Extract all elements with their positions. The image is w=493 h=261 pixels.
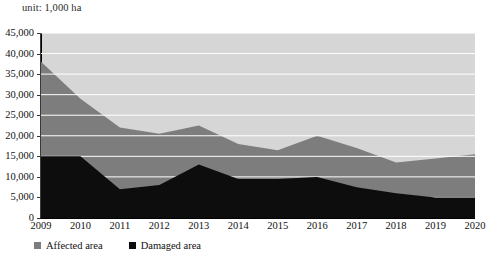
y-tick-label: 40,000	[5, 49, 34, 59]
y-tick-label: 45,000	[5, 28, 34, 38]
chart-legend: Affected areaDamaged area	[34, 240, 201, 251]
legend-item-damaged-area[interactable]: Damaged area	[129, 240, 201, 251]
x-tick-label: 2010	[70, 220, 91, 231]
x-tick-label: 2009	[31, 220, 52, 231]
y-tick-label: 15,000	[5, 151, 34, 161]
plot-area	[41, 33, 475, 218]
x-tick-label: 2019	[425, 220, 446, 231]
y-tick-label: 25,000	[5, 110, 34, 120]
legend-label: Affected area	[46, 240, 103, 251]
x-tick-label: 2014	[228, 220, 249, 231]
y-tick-mark	[37, 218, 41, 219]
x-tick-label: 2012	[149, 220, 170, 231]
x-tick-label: 2013	[188, 220, 209, 231]
area-chart: unit: 1,000 ha 05,00010,00015,00020,0002…	[0, 0, 493, 261]
y-tick-label: 35,000	[5, 69, 34, 79]
y-tick-label: 10,000	[5, 172, 34, 182]
x-tick-label: 2011	[110, 220, 131, 231]
x-tick-label: 2020	[465, 220, 486, 231]
x-axis: 2009201020112012201320142015201620172018…	[0, 220, 493, 236]
series-layer	[41, 33, 475, 218]
legend-label: Damaged area	[141, 240, 201, 251]
x-tick-label: 2016	[307, 220, 328, 231]
legend-item-affected-area[interactable]: Affected area	[34, 240, 103, 251]
y-tick-label: 20,000	[5, 131, 34, 141]
y-tick-label: 30,000	[5, 90, 34, 100]
x-tick-label: 2017	[346, 220, 367, 231]
x-tick-label: 2015	[267, 220, 288, 231]
legend-swatch-icon	[34, 242, 41, 249]
y-tick-label: 5,000	[10, 192, 34, 202]
legend-swatch-icon	[129, 242, 136, 249]
x-tick-label: 2018	[386, 220, 407, 231]
